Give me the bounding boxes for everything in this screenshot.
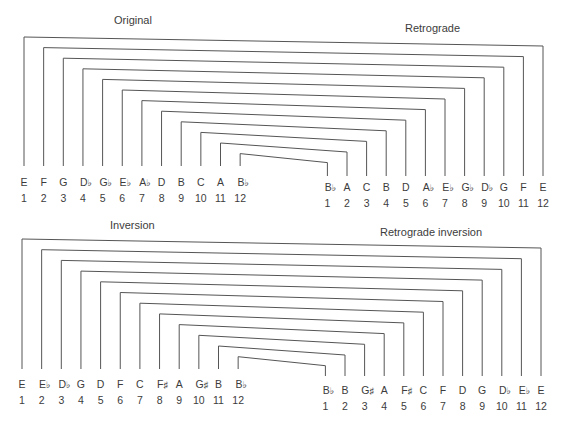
bracket-line [238, 357, 325, 376]
position-number: 5 [100, 193, 106, 204]
bracket-line [83, 69, 484, 176]
position-number: 3 [58, 395, 64, 406]
note-label: D [97, 379, 105, 390]
bracket-line [24, 37, 543, 176]
bracket-line [81, 271, 482, 376]
position-number: 11 [518, 198, 529, 209]
flat-icon: ♭ [449, 183, 453, 193]
position-number: 9 [178, 193, 184, 204]
position-number: 3 [60, 193, 66, 204]
position-number: 6 [420, 401, 426, 412]
position-number: 6 [117, 395, 123, 406]
position-number: 1 [19, 395, 25, 406]
position-number: 7 [440, 401, 446, 412]
sharp-icon: ♯ [204, 380, 209, 390]
position-number: 2 [342, 401, 348, 412]
note-label: B [215, 379, 222, 390]
position-number: 9 [176, 395, 182, 406]
position-number: 11 [516, 401, 527, 412]
position-number: 12 [232, 395, 244, 406]
position-number: 9 [481, 198, 487, 209]
bracket-line [103, 79, 465, 176]
position-number: 2 [41, 193, 47, 204]
note-label: E [20, 177, 27, 188]
note-label: A [176, 379, 183, 390]
note-label: D♭ [58, 379, 70, 390]
sharp-icon: ♯ [369, 386, 374, 396]
bracket-lines [0, 0, 565, 427]
note-label: D♭ [499, 385, 511, 396]
position-number: 6 [422, 198, 428, 209]
note-label: A♭ [139, 177, 150, 188]
note-label: C [420, 385, 428, 396]
flat-icon: ♭ [245, 178, 249, 188]
bracket-line [44, 48, 524, 176]
note-label: G [77, 379, 85, 390]
position-number: 3 [364, 198, 370, 209]
note-label: B♭ [238, 177, 249, 188]
title-retrograde-inversion: Retrograde inversion [380, 226, 482, 238]
position-number: 2 [39, 395, 45, 406]
position-number: 11 [215, 193, 226, 204]
position-number: 4 [78, 395, 84, 406]
position-number: 1 [322, 401, 328, 412]
note-label: B [341, 385, 348, 396]
position-number: 7 [139, 193, 145, 204]
flat-icon: ♭ [146, 178, 150, 188]
note-label: E♭ [39, 379, 50, 390]
note-label: F♯ [401, 385, 412, 396]
flat-icon: ♭ [489, 183, 493, 193]
position-number: 4 [381, 401, 387, 412]
title-retrograde: Retrograde [405, 22, 460, 34]
note-label: A♭ [423, 182, 434, 193]
position-number: 7 [442, 198, 448, 209]
bracket-line [201, 132, 367, 176]
position-number: 3 [362, 401, 368, 412]
note-label: E [18, 379, 25, 390]
note-label: B [178, 177, 185, 188]
note-label: F [117, 379, 123, 390]
position-number: 10 [498, 198, 510, 209]
note-label: E [537, 385, 544, 396]
note-label: G♭ [99, 177, 111, 188]
bracket-line [199, 335, 365, 376]
title-inversion: Inversion [110, 219, 155, 231]
bracket-line [160, 314, 404, 376]
flat-icon: ♭ [127, 178, 131, 188]
flat-icon: ♭ [108, 178, 112, 188]
note-label: G♯ [361, 385, 374, 396]
bracket-line [240, 154, 327, 176]
bracket-line [181, 122, 386, 176]
note-label: C [363, 182, 371, 193]
position-number: 8 [159, 193, 165, 204]
note-label: D [158, 177, 166, 188]
position-number: 8 [462, 198, 468, 209]
position-number: 6 [119, 193, 125, 204]
note-label: D [402, 182, 410, 193]
flat-icon: ♭ [46, 380, 50, 390]
bracket-line [221, 143, 348, 176]
sharp-icon: ♯ [164, 380, 169, 390]
note-label: B [383, 182, 390, 193]
position-number: 2 [344, 198, 350, 209]
position-number: 5 [403, 198, 409, 209]
note-label: B♭ [323, 385, 334, 396]
position-number: 7 [137, 395, 143, 406]
position-number: 5 [401, 401, 407, 412]
flat-icon: ♭ [430, 183, 434, 193]
flat-icon: ♭ [470, 183, 474, 193]
note-label: A [217, 177, 224, 188]
flat-icon: ♭ [506, 386, 510, 396]
note-label: D♭ [80, 177, 92, 188]
bracket-line [162, 111, 406, 176]
position-number: 1 [21, 193, 27, 204]
position-number: 12 [537, 198, 549, 209]
note-label: B♭ [325, 182, 336, 193]
note-label: B♭ [236, 379, 247, 390]
note-label: A [381, 385, 388, 396]
note-label: C [136, 379, 144, 390]
note-label: F♯ [157, 379, 168, 390]
note-label: E♭ [519, 385, 530, 396]
position-number: 4 [383, 198, 389, 209]
note-label: G♭ [461, 182, 473, 193]
